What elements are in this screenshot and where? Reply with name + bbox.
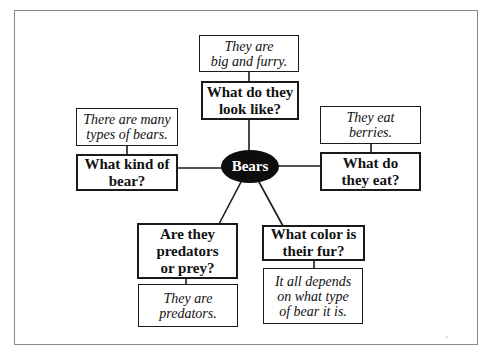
answer-text: They are big and furry. (211, 39, 288, 69)
answer-box-diet: They eat berries. (320, 106, 421, 144)
question-text: Are they predators or prey? (156, 226, 218, 277)
question-text: What do they eat? (342, 155, 400, 189)
question-box-diet: What do they eat? (320, 152, 421, 191)
answer-box-fur-color: It all depends on what type of bear it i… (263, 268, 363, 324)
question-text: What kind of bear? (84, 156, 169, 190)
answer-box-predator: They are predators. (138, 284, 238, 327)
question-box-predator: Are they predators or prey? (137, 223, 238, 279)
connector-bottom-left (219, 182, 241, 224)
scan-speck (446, 336, 448, 338)
answer-text: There are many types of bears. (83, 112, 171, 142)
question-text: What color is their fur? (271, 226, 357, 260)
answer-box-kind: There are many types of bears. (76, 108, 178, 146)
question-box-fur-color: What color is their fur? (262, 225, 365, 261)
question-box-kind: What kind of bear? (76, 154, 178, 191)
answer-box-appearance: They are big and furry. (199, 35, 299, 72)
question-box-appearance: What do they look like? (201, 81, 299, 120)
answer-text: They are predators. (159, 291, 216, 321)
center-label: Bears (232, 158, 269, 175)
answer-text: They eat berries. (347, 110, 395, 140)
center-node-bears: Bears (221, 150, 279, 183)
question-text: What do they look like? (207, 84, 294, 118)
connector-bottom-right (259, 182, 283, 226)
answer-text: It all depends on what type of bear it i… (275, 274, 351, 319)
